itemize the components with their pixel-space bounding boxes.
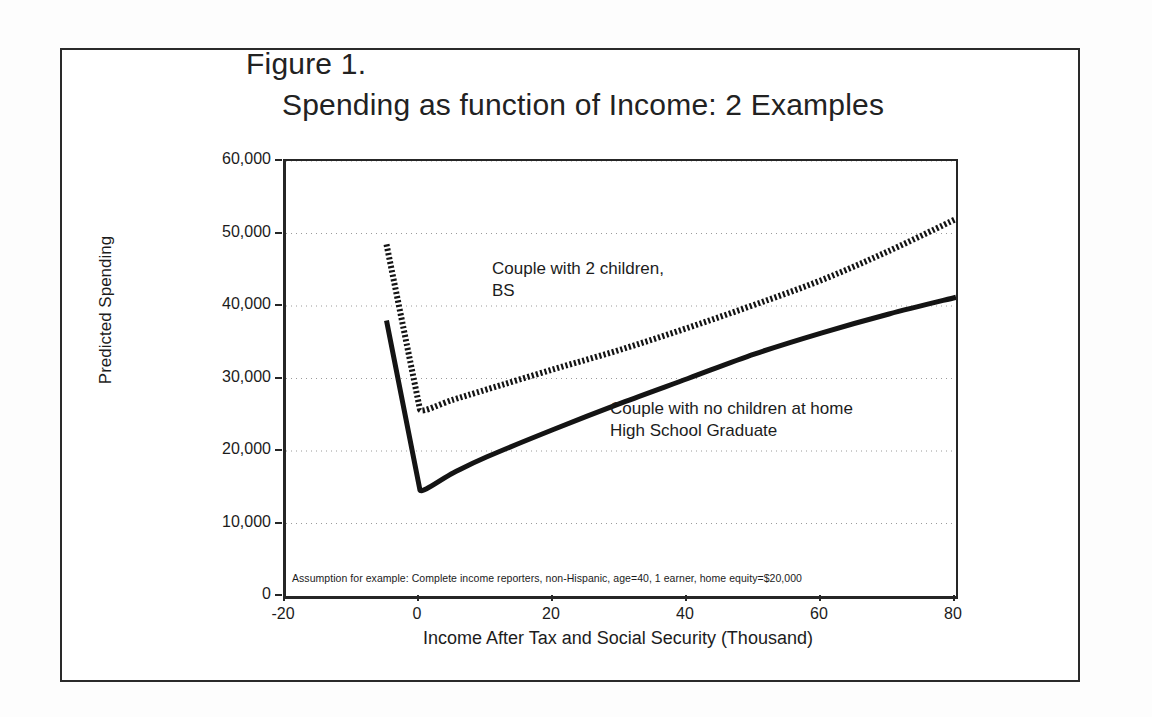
footnote-assumption: Assumption for example: Complete income … [292,572,802,585]
y-tick-mark [275,522,282,524]
y-tick-mark [275,377,282,379]
figure-title: Spending as function of Income: 2 Exampl… [282,84,946,126]
y-tick-mark [275,304,282,306]
figure-number: Figure 1. [246,44,946,84]
y-tick-label: 50,000 [179,224,271,240]
y-tick-label: 20,000 [179,441,271,457]
y-tick-label: 60,000 [179,151,271,167]
y-tick-label: 40,000 [179,296,271,312]
chart-canvas [286,161,956,596]
y-tick-label: 0 [179,586,271,602]
y-tick-mark [275,594,282,596]
y-axis-title: Predicted Spending [96,190,116,430]
y-tick-mark [275,159,282,161]
x-tick-label: -20 [243,606,323,622]
y-tick-label: 30,000 [179,369,271,385]
data-series-layer [387,219,957,491]
data-series-line-1 [387,219,957,411]
x-tick-label: 20 [511,606,591,622]
figure-title-block: Figure 1. Spending as function of Income… [246,44,946,126]
x-tick-label: 40 [645,606,725,622]
series-label-couple-2-children: Couple with 2 children, BS [492,258,664,302]
y-tick-mark [275,449,282,451]
plot-area [283,159,958,599]
data-series-line-2 [387,297,957,490]
x-axis-title: Income After Tax and Social Security (Th… [283,628,953,649]
y-tick-label: 10,000 [179,514,271,530]
gridlines [286,161,956,524]
y-tick-mark [275,232,282,234]
x-tick-label: 80 [913,606,993,622]
x-tick-label: 60 [779,606,859,622]
x-tick-label: 0 [377,606,457,622]
series-label-couple-no-children: Couple with no children at home High Sch… [610,398,853,442]
